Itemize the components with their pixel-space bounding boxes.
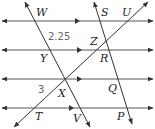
point-label-t: T — [35, 110, 44, 123]
labels: WSU2.25ZYR3XQTVP — [35, 6, 132, 125]
length-label: 3 — [38, 84, 44, 95]
parallel-arrow-icon — [69, 105, 74, 111]
point-label-q: Q — [108, 82, 117, 95]
point-label-s: S — [101, 6, 109, 19]
point-label-x: X — [57, 87, 67, 100]
point-label-u: U — [122, 6, 132, 19]
point-label-r: R — [99, 52, 108, 65]
parallel-arrow-icon — [75, 18, 80, 24]
point-label-z: Z — [89, 35, 98, 48]
point-label-y: Y — [40, 52, 49, 65]
parallel-lines — [2, 18, 153, 111]
parallel-lines-diagram: WSU2.25ZYR3XQTVP — [0, 0, 155, 129]
point-label-w: W — [36, 6, 49, 19]
parallel-arrow-icon — [77, 47, 82, 53]
length-label: 2.25 — [48, 31, 70, 42]
point-label-v: V — [73, 112, 82, 125]
point-label-p: P — [116, 110, 125, 123]
parallel-arrow-icon — [77, 76, 82, 82]
